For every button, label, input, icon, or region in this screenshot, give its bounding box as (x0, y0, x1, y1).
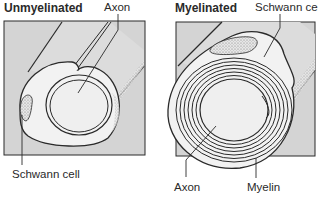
panel-title-unmyelinated: Unmyelinated (4, 1, 83, 15)
myelinated-panel (168, 14, 315, 178)
label-schwann-cell-myelinated: Schwann cell (255, 1, 318, 13)
label-axon-myelinated: Axon (174, 181, 200, 193)
label-myelin: Myelin (247, 181, 280, 193)
panel-title-myelinated: Myelinated (175, 1, 237, 15)
axon-cross-section (200, 79, 268, 141)
unmyelinated-panel (4, 14, 145, 165)
label-axon-unmyelinated: Axon (104, 1, 130, 13)
label-schwann-cell-unmyelinated: Schwann cell (12, 168, 80, 180)
